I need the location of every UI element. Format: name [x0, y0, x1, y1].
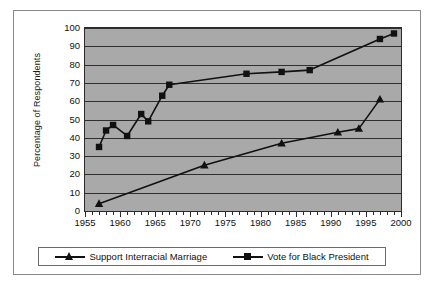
data-point-marker	[110, 122, 116, 128]
data-point-marker	[159, 93, 165, 99]
data-point-marker	[243, 71, 249, 77]
x-axis-minor-tick	[359, 212, 360, 215]
x-axis-minor-tick	[317, 212, 318, 215]
x-axis-minor-tick	[162, 212, 163, 215]
x-axis-minor-tick	[394, 212, 395, 215]
x-axis-minor-tick	[176, 212, 177, 215]
x-axis-minor-tick	[275, 212, 276, 215]
x-axis-labels: 1955196019651970197519801985199019952000	[84, 217, 402, 231]
x-axis-tick-label: 2000	[381, 217, 421, 228]
legend-label: Vote for Black President	[267, 251, 368, 262]
x-axis-minor-tick	[92, 212, 93, 215]
x-axis-minor-tick	[232, 212, 233, 215]
x-axis-tick-label: 1985	[276, 217, 316, 228]
x-axis-minor-tick	[169, 212, 170, 215]
x-axis-minor-tick	[268, 212, 269, 215]
data-point-marker	[103, 127, 109, 133]
y-axis-tick-label: 10	[34, 187, 80, 198]
x-axis-minor-tick	[282, 212, 283, 215]
x-axis-minor-tick	[148, 212, 149, 215]
legend-label: Support Interracial Marriage	[89, 251, 207, 262]
x-axis-minor-tick	[106, 212, 107, 215]
data-point-marker	[391, 30, 397, 36]
x-axis-minor-tick	[352, 212, 353, 215]
y-axis-tick-label: 100	[34, 22, 80, 33]
x-axis-tick-label: 1995	[346, 217, 386, 228]
plot-area	[84, 27, 402, 212]
plot-inner	[85, 28, 401, 211]
x-axis-minor-tick	[211, 212, 212, 215]
x-axis-minor-tick	[218, 212, 219, 215]
x-axis-minor-tick	[373, 212, 374, 215]
data-point-marker	[307, 67, 313, 73]
x-axis-tick-label: 1970	[170, 217, 210, 228]
x-axis-minor-tick	[387, 212, 388, 215]
data-point-marker	[377, 36, 383, 42]
x-axis-minor-tick	[324, 212, 325, 215]
y-axis-tick-label: 50	[34, 114, 80, 125]
y-axis-tick-label: 40	[34, 132, 80, 143]
x-axis-tick-label: 1975	[205, 217, 245, 228]
data-point-marker	[96, 144, 102, 150]
x-axis-minor-tick	[183, 212, 184, 215]
y-axis-tick-label: 30	[34, 150, 80, 161]
y-axis-tick-label: 20	[34, 168, 80, 179]
x-axis-minor-tick	[247, 212, 248, 215]
x-axis-tick-label: 1955	[65, 217, 105, 228]
x-axis-minor-tick	[239, 212, 240, 215]
data-point-marker	[278, 69, 284, 75]
x-axis-tick-label: 1965	[135, 217, 175, 228]
data-point-marker	[145, 118, 151, 124]
x-axis-minor-tick	[338, 212, 339, 215]
y-axis-tick-label: 0	[34, 205, 80, 216]
chart-figure: Percentage of Respondents 01020304050607…	[13, 10, 421, 275]
x-axis-minor-tick	[345, 212, 346, 215]
triangle-marker-icon	[65, 252, 73, 260]
series-2	[96, 30, 397, 150]
y-axis-tick-label: 70	[34, 77, 80, 88]
square-marker-icon	[244, 253, 251, 260]
x-axis-tick-label: 1990	[311, 217, 351, 228]
legend-marker-sample	[55, 251, 85, 262]
x-axis-minor-tick	[141, 212, 142, 215]
legend-marker-sample	[233, 251, 263, 262]
x-axis-ticks	[84, 212, 402, 216]
y-axis-tick-label: 60	[34, 95, 80, 106]
x-axis-minor-tick	[310, 212, 311, 215]
data-point-marker	[138, 111, 144, 117]
y-axis-tick-label: 90	[34, 40, 80, 51]
x-axis-minor-tick	[197, 212, 198, 215]
x-axis-minor-tick	[99, 212, 100, 215]
x-axis-minor-tick	[127, 212, 128, 215]
y-axis-tick-label: 80	[34, 59, 80, 70]
legend-entry-1[interactable]: Support Interracial Marriage	[55, 251, 207, 262]
x-axis-tick-label: 1980	[241, 217, 281, 228]
y-axis-labels: 0102030405060708090100	[28, 27, 80, 212]
x-axis-minor-tick	[204, 212, 205, 215]
series-layer	[85, 28, 401, 211]
x-axis-minor-tick	[113, 212, 114, 215]
x-axis-minor-tick	[380, 212, 381, 215]
x-axis-minor-tick	[289, 212, 290, 215]
x-axis-minor-tick	[134, 212, 135, 215]
x-axis-minor-tick	[254, 212, 255, 215]
data-point-marker	[124, 133, 130, 139]
legend-entry-2[interactable]: Vote for Black President	[233, 251, 368, 262]
data-point-marker	[166, 82, 172, 88]
x-axis-tick-label: 1960	[100, 217, 140, 228]
chart-legend: Support Interracial MarriageVote for Bla…	[38, 247, 386, 266]
x-axis-minor-tick	[303, 212, 304, 215]
data-point-marker	[376, 95, 384, 103]
